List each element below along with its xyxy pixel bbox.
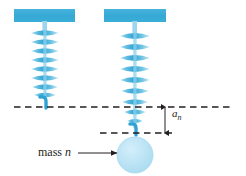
- extension-label: an: [172, 108, 182, 122]
- spring-right-coils: [120, 32, 150, 128]
- mass-circle: [117, 137, 153, 173]
- diagram-canvas: [0, 0, 246, 176]
- extension-subscript: n: [178, 113, 182, 122]
- left-spring-assembly: [14, 9, 75, 108]
- right-spring-assembly: [104, 9, 166, 173]
- spring-mass-diagram: mass n an: [0, 0, 246, 176]
- mass-label-prefix: mass: [38, 145, 65, 159]
- mass-label-symbol: n: [65, 145, 71, 159]
- spring-left-coils: [31, 30, 59, 98]
- support-bar-left: [14, 9, 75, 22]
- spring-left-top-stub: [42, 21, 47, 31]
- mass-label: mass n: [38, 146, 71, 158]
- support-bar-right: [104, 9, 166, 22]
- spring-right-top-stub: [132, 21, 137, 33]
